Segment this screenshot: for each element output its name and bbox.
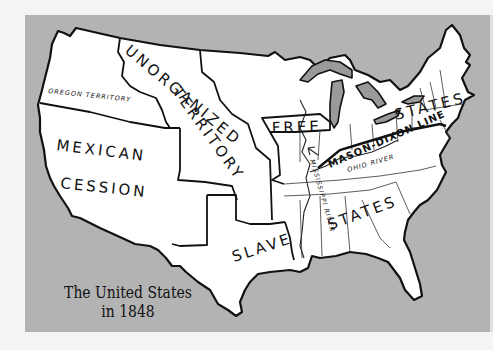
caption-line-2: in 1848 — [62, 302, 193, 321]
us-landmass — [38, 25, 474, 316]
map-caption: The United States in 1848 — [62, 283, 193, 321]
caption-line-1: The United States — [62, 283, 193, 302]
label-free: FREE — [272, 117, 323, 137]
